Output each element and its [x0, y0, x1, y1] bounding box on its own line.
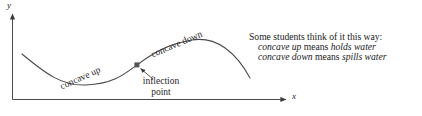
inflection-point-label-line1: inflection — [131, 77, 191, 87]
x-axis-label: x — [292, 92, 296, 101]
inflection-point-marker — [134, 62, 139, 67]
note-result-spills-water: spills water — [342, 51, 387, 62]
note-line-concave-down: concave down means spills water — [249, 52, 386, 62]
note-verb-down: means — [315, 51, 340, 62]
inflection-point-label-line2: point — [131, 88, 191, 98]
students-note: Some students think of it this way: conc… — [249, 32, 386, 62]
note-term-concave-down: concave down — [258, 51, 313, 62]
concavity-figure: y x concave up concave down inflection p… — [0, 0, 422, 116]
y-axis-label: y — [7, 1, 11, 10]
